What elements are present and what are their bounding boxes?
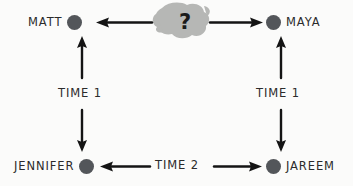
node-jareem[interactable]: JAREEM: [266, 159, 335, 174]
edge-label-time-2-bottom: TIME 2: [155, 160, 199, 172]
arrow-up-to-maya: [276, 36, 286, 78]
node-maya-label: MAYA: [286, 17, 321, 29]
node-unknown[interactable]: ?: [160, 4, 210, 41]
edge-label-time-1-right: TIME 1: [256, 88, 300, 100]
arrow-unknown-to-matt: [96, 17, 152, 27]
node-matt-label: MATT: [28, 17, 62, 29]
arrow-time2-to-jennifer: [100, 161, 150, 171]
node-maya[interactable]: MAYA: [266, 15, 321, 30]
arrow-time2-to-jareem: [214, 161, 262, 171]
edge-label-time-1-left: TIME 1: [58, 88, 102, 100]
node-jennifer-dot: [79, 159, 94, 174]
node-maya-dot: [266, 15, 281, 30]
arrow-down-to-jareem: [276, 110, 286, 152]
arrow-down-to-jennifer: [77, 110, 87, 152]
question-mark-icon: ?: [179, 12, 191, 33]
node-jareem-label: JAREEM: [286, 161, 335, 173]
arrow-up-to-matt: [77, 36, 87, 78]
diagram-canvas: MATT ? MAYA JENNIFER JAREEM TIME 1 TIME …: [0, 0, 353, 186]
node-jennifer-label: JENNIFER: [14, 161, 74, 173]
node-matt-dot: [67, 15, 82, 30]
node-jareem-dot: [266, 159, 281, 174]
arrow-unknown-to-maya: [210, 17, 263, 27]
node-jennifer[interactable]: JENNIFER: [14, 159, 94, 174]
node-matt[interactable]: MATT: [28, 15, 82, 30]
